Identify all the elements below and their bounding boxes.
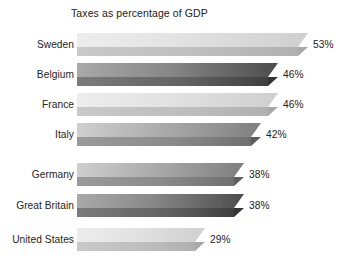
bar-top-face (77, 63, 278, 77)
bar-row: Great Britain 38% (0, 194, 357, 224)
bar-great-britain (77, 194, 244, 224)
value-label: 38% (249, 200, 270, 211)
bar-top-face (77, 163, 244, 177)
bar-end-cap (268, 107, 278, 116)
bar-row: United States 29% (0, 228, 357, 258)
category-label: Sweden (37, 39, 74, 50)
value-label: 53% (313, 39, 334, 50)
bar-end-cap (195, 242, 205, 251)
bar-sweden (77, 33, 308, 63)
bar-row: Italy 42% (0, 123, 357, 153)
bar-end-cap (234, 208, 244, 217)
category-label: Italy (55, 129, 74, 140)
category-label: United States (12, 234, 74, 245)
bar-row: Sweden 53% (0, 33, 357, 63)
bar-chart: Taxes as percentage of GDP Sweden 53% Be… (0, 0, 357, 267)
bar-end-cap (251, 137, 261, 146)
bar-top-face (77, 228, 205, 242)
category-label: Belgium (37, 69, 74, 80)
bar-front-face (77, 242, 195, 251)
bar-front-face (77, 107, 268, 116)
value-label: 46% (283, 69, 304, 80)
bar-france (77, 93, 278, 123)
chart-title: Taxes as percentage of GDP (71, 7, 208, 19)
bar-germany (77, 163, 244, 193)
value-label: 29% (210, 234, 231, 245)
bar-front-face (77, 47, 298, 56)
bar-end-cap (234, 177, 244, 186)
bar-row: Belgium 46% (0, 63, 357, 93)
bar-top-face (77, 33, 308, 47)
bar-italy (77, 123, 261, 153)
bar-top-face (77, 93, 278, 107)
bar-end-cap (298, 47, 308, 56)
bar-row: France 46% (0, 93, 357, 123)
category-label: France (42, 99, 74, 110)
bar-front-face (77, 137, 251, 146)
value-label: 42% (266, 129, 287, 140)
bar-row: Germany 38% (0, 163, 357, 193)
bar-top-face (77, 123, 261, 137)
category-label: Germany (32, 169, 74, 180)
category-label: Great Britain (16, 200, 74, 211)
bar-end-cap (268, 77, 278, 86)
value-label: 46% (283, 99, 304, 110)
value-label: 38% (249, 169, 270, 180)
bar-front-face (77, 208, 234, 217)
bar-united-states (77, 228, 205, 258)
bar-front-face (77, 177, 234, 186)
bar-belgium (77, 63, 278, 93)
bar-top-face (77, 194, 244, 208)
bar-front-face (77, 77, 268, 86)
